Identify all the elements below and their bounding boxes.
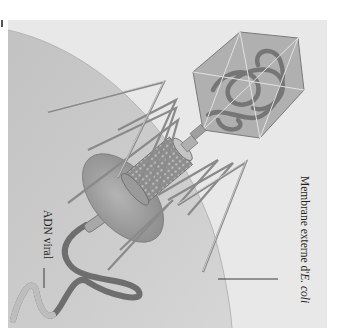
capsid-head bbox=[190, 32, 304, 140]
membrane-label: Membrane externe d'E. coli bbox=[299, 176, 311, 303]
membrane-label-text: Membrane externe d' bbox=[299, 176, 311, 273]
phage-illustration: Membrane externe d'E. coli ADN viral bbox=[8, 20, 327, 328]
membrane-label-species: E. coli bbox=[299, 273, 311, 303]
illustration-canvas bbox=[8, 20, 327, 328]
dna-label-text: ADN viral bbox=[42, 210, 54, 259]
dna-label: ADN viral bbox=[42, 210, 54, 259]
page-edge-marker bbox=[1, 20, 3, 27]
